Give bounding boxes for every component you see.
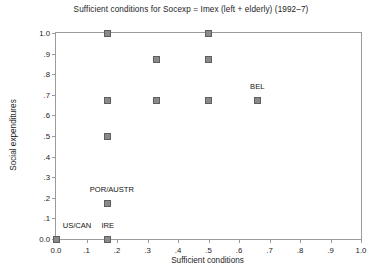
data-point (205, 97, 212, 104)
x-axis-tick-label: 0.0 (51, 246, 62, 255)
data-point-label: POR/AUSTR (90, 185, 134, 194)
y-axis-tick-label: 0.0 (39, 235, 50, 244)
data-point (104, 236, 111, 243)
data-point-label: US/CAN (63, 221, 92, 230)
y-axis-tick (52, 54, 56, 55)
x-axis-tick (300, 239, 301, 243)
data-point (205, 56, 212, 63)
y-axis-tick-label: .1 (43, 214, 50, 223)
x-axis-tick (331, 239, 332, 243)
data-point (254, 97, 261, 104)
y-axis-tick (52, 218, 56, 219)
x-axis-tick-label: .3 (144, 246, 151, 255)
x-axis-tick-label: .5 (205, 246, 212, 255)
y-axis-tick (52, 157, 56, 158)
x-axis-label: Sufficient conditions (55, 256, 360, 265)
y-axis-tick (52, 33, 56, 34)
y-axis-tick (52, 136, 56, 137)
y-axis-tick (52, 177, 56, 178)
plot-inner: 0.0.1.2.3.4.5.6.7.8.91.00.0.1.2.3.4.5.6.… (56, 33, 361, 239)
x-axis-tick (270, 239, 271, 243)
x-axis-tick-label: .8 (297, 246, 304, 255)
scatter-plot-figure: Sufficient conditions for Socexp = Imex … (0, 0, 382, 273)
x-axis-tick-label: 1.0 (356, 246, 367, 255)
data-point-label: IRE (102, 221, 115, 230)
x-axis-tick (239, 239, 240, 243)
y-axis-tick (52, 115, 56, 116)
y-axis-tick-label: 1.0 (39, 29, 50, 38)
data-point (153, 97, 160, 104)
x-axis-tick (361, 239, 362, 243)
y-axis-tick (52, 74, 56, 75)
data-point (104, 200, 111, 207)
chart-title: Sufficient conditions for Socexp = Imex … (0, 5, 382, 14)
data-point (53, 236, 60, 243)
y-axis-tick (52, 198, 56, 199)
x-axis-tick-label: .7 (266, 246, 273, 255)
y-axis-label: Social expenditures (8, 32, 20, 238)
x-axis-tick (87, 239, 88, 243)
x-axis-tick (117, 239, 118, 243)
y-axis-tick-label: .8 (43, 70, 50, 79)
y-axis-tick-label: .7 (43, 90, 50, 99)
y-axis-tick-label: .2 (43, 193, 50, 202)
data-point (153, 56, 160, 63)
y-axis-tick-label: .3 (43, 173, 50, 182)
data-point (104, 30, 111, 37)
data-point (104, 133, 111, 140)
x-axis-tick-label: .2 (114, 246, 121, 255)
x-axis-tick-label: .1 (83, 246, 90, 255)
x-axis-tick-label: .6 (236, 246, 243, 255)
x-axis-tick-label: .4 (175, 246, 182, 255)
data-point-label: BEL (250, 82, 264, 91)
y-axis-tick-label: .9 (43, 49, 50, 58)
y-axis-tick-label: .4 (43, 152, 50, 161)
y-axis-tick-label: .6 (43, 111, 50, 120)
data-point (205, 30, 212, 37)
data-point (104, 97, 111, 104)
x-axis-tick (209, 239, 210, 243)
plot-area: 0.0.1.2.3.4.5.6.7.8.91.00.0.1.2.3.4.5.6.… (55, 32, 362, 240)
x-axis-tick-label: .9 (327, 246, 334, 255)
x-axis-tick (148, 239, 149, 243)
x-axis-tick (178, 239, 179, 243)
y-axis-tick (52, 95, 56, 96)
y-axis-tick-label: .5 (43, 132, 50, 141)
